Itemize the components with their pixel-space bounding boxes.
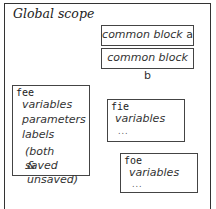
routine-line: variables <box>115 112 165 126</box>
routine-name: fee <box>16 87 34 98</box>
routine-line: variables <box>129 166 179 180</box>
routine-line: variables <box>22 98 72 112</box>
routine-line: parameters <box>22 113 86 127</box>
common-block-suffix: b <box>144 69 151 82</box>
common-block-label: common block <box>107 51 188 64</box>
ellipsis: ... <box>132 181 143 189</box>
routine-fie-box: fie variables ... <box>107 99 185 142</box>
common-block-label: common block <box>102 28 183 41</box>
common-block-b: common block b <box>101 48 194 69</box>
ellipsis: ... <box>118 128 129 136</box>
routine-fee-box: fee variables parameters labels (both sa… <box>12 85 90 176</box>
routine-note: & unsaved) <box>27 159 89 187</box>
routine-line: labels <box>22 128 54 142</box>
common-block-a: common block a <box>101 25 194 46</box>
common-block-suffix: a <box>186 28 193 41</box>
routine-name: foe <box>124 155 142 166</box>
routine-name: fie <box>111 101 129 112</box>
global-scope-title: Global scope <box>13 6 94 21</box>
routine-foe-box: foe variables ... <box>120 153 198 193</box>
